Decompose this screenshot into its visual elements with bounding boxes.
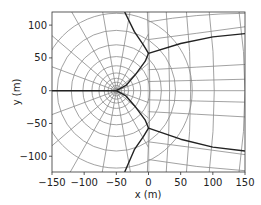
right-streamline — [149, 100, 246, 102]
y-tick-label: −50 — [26, 118, 47, 129]
radial-streamline — [116, 79, 148, 91]
y-tick-label: 0 — [41, 85, 47, 96]
right-equipotential — [186, 12, 190, 172]
x-tick-label: 50 — [174, 177, 187, 188]
radial-streamline — [116, 91, 148, 103]
x-tick-label: 0 — [145, 177, 151, 188]
y-tick-label: −100 — [20, 151, 47, 162]
y-tick-label: 50 — [34, 52, 47, 63]
flow-net-chart: −150−100−50050100150−100−50050100 x (m) … — [0, 0, 261, 205]
right-streamline — [149, 160, 246, 171]
radial-streamline — [116, 63, 148, 91]
right-streamline — [149, 64, 246, 69]
x-tick-label: −100 — [70, 177, 97, 188]
x-tick-label: −150 — [38, 177, 65, 188]
right-equipotential — [239, 12, 245, 172]
right-equipotential — [209, 12, 214, 172]
x-tick-label: 100 — [203, 177, 222, 188]
radial-streamline — [18, 91, 117, 175]
right-streamline — [149, 27, 246, 40]
grid-curves — [0, 0, 245, 205]
x-tick-label: −50 — [106, 177, 127, 188]
y-axis-label: y (m) — [11, 79, 22, 106]
dividing-streamline-lower — [125, 128, 245, 172]
right-streamline — [149, 13, 246, 22]
right-streamline — [149, 112, 246, 117]
x-tick-label: 150 — [235, 177, 254, 188]
x-axis-label: x (m) — [135, 189, 162, 200]
radial-streamline — [116, 91, 148, 119]
y-tick-label: 100 — [28, 20, 47, 31]
right-streamline — [149, 79, 246, 81]
